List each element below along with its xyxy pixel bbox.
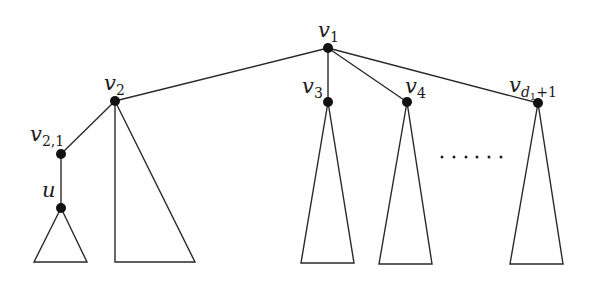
subtree-v3 xyxy=(301,102,354,263)
label-u: u xyxy=(42,180,56,201)
tree-diagram: v1 v2 v2,1 u v3 v4 vd1+1 xyxy=(0,0,602,285)
edge-v2-v2-1 xyxy=(61,101,115,154)
subtree-v2 xyxy=(115,101,195,262)
tree-graphic xyxy=(0,0,602,285)
node-u xyxy=(56,203,66,213)
edge-v1-v4 xyxy=(328,48,407,102)
label-v2: v2 xyxy=(104,73,125,97)
edge-v1-vd1plus1 xyxy=(328,48,538,103)
node-v3 xyxy=(323,97,333,107)
label-v4: v4 xyxy=(405,76,426,100)
subtree-u xyxy=(34,208,87,262)
label-v1: v1 xyxy=(318,20,339,44)
label-v2-1: v2,1 xyxy=(30,124,64,148)
subtree-v4 xyxy=(379,102,432,264)
subtree-vd1plus1 xyxy=(510,103,563,264)
ellipsis-dots xyxy=(441,156,503,159)
label-vd1plus1: vd1+1 xyxy=(509,75,557,102)
edge-v1-v2 xyxy=(115,48,328,101)
label-v3: v3 xyxy=(302,76,323,100)
node-v2-1 xyxy=(56,149,66,159)
